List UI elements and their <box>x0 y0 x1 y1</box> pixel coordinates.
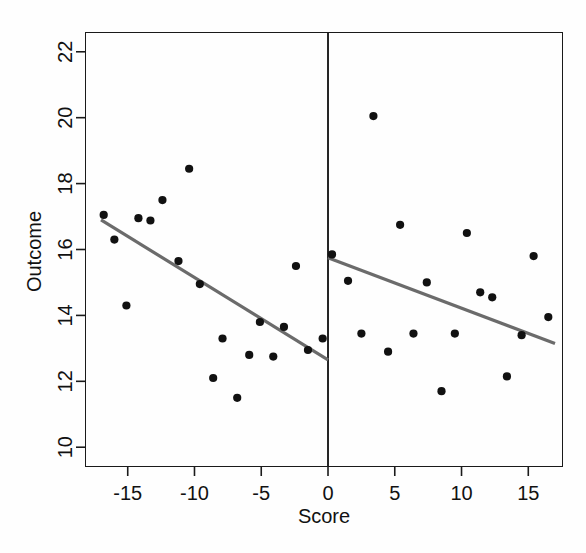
y-axis-tick-label: 16 <box>54 238 76 260</box>
y-axis-tick-label: 10 <box>54 436 76 458</box>
y-axis-tick-label: 22 <box>54 41 76 63</box>
x-axis-tick-label: 15 <box>517 482 539 504</box>
y-axis-tick-label: 12 <box>54 370 76 392</box>
x-axis-tick-label: 0 <box>322 482 333 504</box>
x-axis-tick-label: -5 <box>252 482 270 504</box>
y-axis-tick-label: 18 <box>54 172 76 194</box>
x-axis-tick-label: 10 <box>450 482 472 504</box>
plot-frame <box>85 32 563 467</box>
x-axis-tick-label: -10 <box>180 482 209 504</box>
rd-plot-figure: -15-10-505101510121416182022 Outcome Sco… <box>0 0 586 553</box>
y-axis-title: Outcome <box>23 192 46 312</box>
x-axis-title: Score <box>85 505 563 528</box>
x-axis-tick-label: -15 <box>113 482 142 504</box>
y-axis-tick-label: 14 <box>54 304 76 326</box>
y-axis-tick-label: 20 <box>54 107 76 129</box>
x-axis-tick-label: 5 <box>389 482 400 504</box>
